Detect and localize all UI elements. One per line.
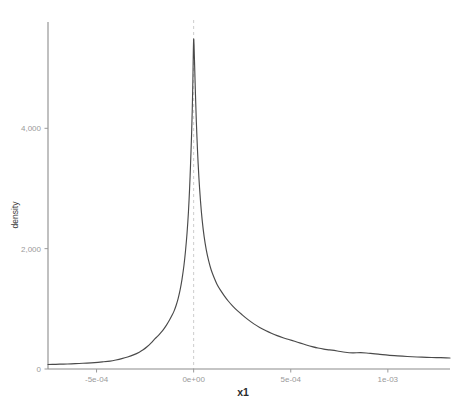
x-tick-label: -5e-04 xyxy=(85,375,109,384)
x-axis-ticks: -5e-040e+005e-041e-03 xyxy=(85,369,399,384)
x-axis-title: x1 xyxy=(237,386,249,398)
x-tick-label: 0e+00 xyxy=(182,375,205,384)
y-axis-ticks: 02,0004,000 xyxy=(21,124,48,374)
y-axis-title: density xyxy=(10,201,20,229)
y-tick-label: 0 xyxy=(37,365,42,374)
plot-panel-background xyxy=(48,20,450,369)
density-plot-figure: 02,0004,000 -5e-040e+005e-041e-03 densit… xyxy=(0,0,468,406)
plot-canvas: 02,0004,000 -5e-040e+005e-041e-03 densit… xyxy=(0,0,468,406)
y-tick-label: 2,000 xyxy=(21,245,42,254)
x-tick-label: 5e-04 xyxy=(281,375,302,384)
y-tick-label: 4,000 xyxy=(21,124,42,133)
x-tick-label: 1e-03 xyxy=(378,375,399,384)
